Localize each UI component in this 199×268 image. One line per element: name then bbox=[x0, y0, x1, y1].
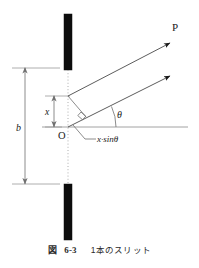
label-path-difference: x·sinθ bbox=[96, 134, 119, 144]
label-angle-theta: θ bbox=[117, 109, 122, 120]
figure-caption: 図6-31本のスリット bbox=[0, 243, 199, 256]
label-point-p: P bbox=[172, 21, 178, 33]
lower-barrier-bar bbox=[64, 184, 72, 240]
caption-figure-number: 6-3 bbox=[64, 245, 77, 255]
figure-container: P O b x θ x·sinθ 図6-31本のスリット bbox=[0, 0, 199, 268]
label-slit-width-b-text: b bbox=[16, 122, 21, 133]
caption-figure-symbol: 図 bbox=[48, 245, 57, 255]
single-slit-diagram: P O b x θ x·sinθ bbox=[0, 0, 199, 268]
upper-barrier-bar bbox=[64, 14, 72, 70]
ray-upper-to-p bbox=[68, 43, 170, 96]
theta-angle-arc bbox=[112, 107, 117, 128]
caption-title-text: 1本のスリット bbox=[91, 245, 151, 255]
label-origin-o: O bbox=[58, 130, 66, 141]
label-path-offset-x: x bbox=[44, 107, 50, 117]
